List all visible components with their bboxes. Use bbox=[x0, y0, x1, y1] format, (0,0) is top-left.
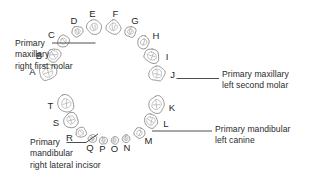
tooth-outline-g bbox=[123, 25, 137, 38]
tooth-letter-f: F bbox=[113, 8, 119, 19]
tooth-s bbox=[62, 111, 80, 130]
tooth-t bbox=[57, 94, 75, 113]
tooth-i bbox=[143, 47, 162, 65]
tooth-letter-j: J bbox=[170, 69, 175, 80]
tooth-outline-e bbox=[86, 19, 103, 36]
tooth-e bbox=[86, 19, 103, 36]
callout-maxillary-left-second-molar: Primary maxillary left second molar bbox=[222, 69, 326, 92]
callout-mandibular-right-lateral-incisor: Primary mandibular right lateral incisor bbox=[30, 137, 130, 171]
tooth-letter-d: D bbox=[71, 15, 78, 26]
tooth-letter-l: L bbox=[163, 118, 168, 129]
tooth-h bbox=[135, 34, 151, 51]
tooth-letter-k: K bbox=[169, 102, 176, 113]
tooth-l bbox=[143, 113, 160, 130]
tooth-outline-d bbox=[70, 25, 84, 39]
tooth-d bbox=[70, 25, 84, 39]
tooth-j bbox=[148, 65, 166, 82]
tooth-g bbox=[123, 25, 137, 38]
tooth-k bbox=[148, 95, 165, 115]
callout-mandibular-left-canine: Primary mandibular left canine bbox=[215, 124, 325, 147]
tooth-letter-g: G bbox=[131, 15, 138, 26]
callout-maxillary-right-first-molar: Primary maxillary right first molar bbox=[15, 38, 107, 72]
tooth-f bbox=[105, 19, 122, 36]
tooth-outline-h bbox=[135, 34, 151, 51]
tooth-outline-k bbox=[148, 95, 165, 115]
tooth-letters-layer: ABCDEFGHIJKLMNOPQRST bbox=[29, 8, 176, 154]
tooth-letter-h: H bbox=[153, 30, 160, 41]
tooth-letter-t: T bbox=[48, 100, 54, 111]
tooth-letter-m: M bbox=[145, 135, 153, 146]
tooth-letter-s: S bbox=[53, 117, 59, 128]
tooth-letter-e: E bbox=[89, 8, 95, 19]
tooth-outline-f bbox=[105, 19, 122, 36]
dental-arch-diagram: ABCDEFGHIJKLMNOPQRST Primary maxillary r… bbox=[0, 0, 327, 187]
tooth-letter-i: I bbox=[166, 51, 169, 62]
